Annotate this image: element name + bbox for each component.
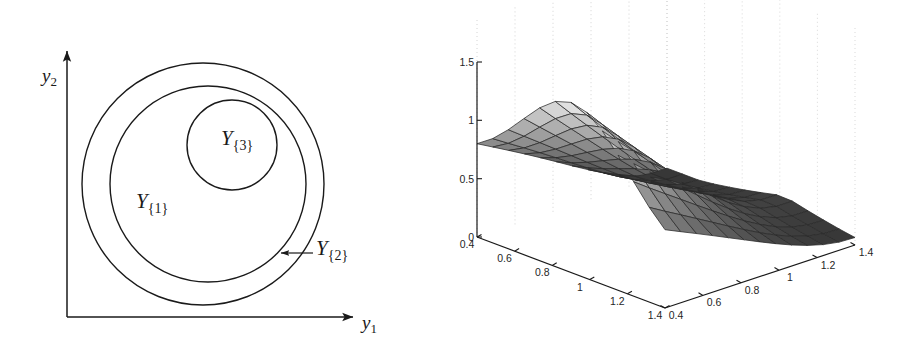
y-tick-label-0.8: 0.8	[745, 284, 760, 296]
y-tick-label-1: 1	[787, 271, 793, 283]
surface-plot-svg: 0.40.60.811.21.40.40.60.811.21.400.511.5	[440, 0, 917, 361]
label-y1: Y{1}	[136, 189, 168, 216]
x-tick-label-1.2: 1.2	[610, 295, 625, 307]
z-tick-label-1.5: 1.5	[459, 56, 474, 68]
y-axis-label: y2	[40, 65, 57, 89]
x-axis-label: y1	[360, 312, 377, 336]
x-tick-label-0.6: 0.6	[497, 252, 512, 264]
x-tick-label-1.4: 1.4	[648, 309, 663, 321]
region-circle-y1	[110, 86, 306, 282]
y-tick-label-0.4: 0.4	[669, 309, 684, 321]
region-circle-y2	[82, 63, 324, 305]
y-tick-label-1.2: 1.2	[821, 259, 836, 271]
surface-mesh	[477, 101, 855, 245]
z-tick-label-0.5: 0.5	[459, 173, 474, 185]
z-tick-label-1: 1	[468, 114, 474, 126]
label-y2: Y{2}	[316, 236, 348, 263]
y-tick-label-1.4: 1.4	[859, 246, 874, 258]
figure-page: Y{1} Y{2} Y{3} y2 y1	[0, 0, 917, 361]
set-diagram-panel: Y{1} Y{2} Y{3} y2 y1	[0, 0, 440, 361]
surface-plot-panel: 0.40.60.811.21.40.40.60.811.21.400.511.5	[440, 0, 917, 361]
y-tick-label-0.6: 0.6	[707, 296, 722, 308]
set-diagram-svg: Y{1} Y{2} Y{3} y2 y1	[0, 0, 440, 361]
x-tick-label-1: 1	[577, 281, 583, 293]
z-tick-label-0: 0	[468, 231, 474, 243]
x-tick-label-0.8: 0.8	[535, 266, 550, 278]
label-y3: Y{3}	[221, 126, 253, 153]
